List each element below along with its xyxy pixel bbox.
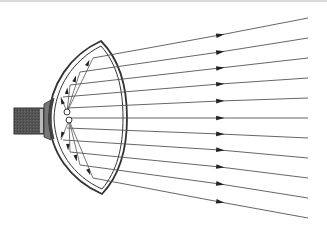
lamp-stripe bbox=[40, 109, 43, 133]
ray-line bbox=[80, 38, 308, 72]
arrow-right-icon bbox=[216, 82, 224, 87]
arrow-right-icon bbox=[216, 199, 225, 204]
ray-line bbox=[70, 152, 308, 178]
arrow-right-icon bbox=[216, 116, 224, 121]
ray bbox=[70, 58, 308, 85]
ray bbox=[67, 128, 308, 138]
arrow-right-icon bbox=[216, 181, 225, 186]
arrow-icon bbox=[61, 98, 65, 105]
ray bbox=[80, 165, 308, 198]
arrow-right-icon bbox=[216, 164, 225, 169]
parabolic-reflector-diagram: Parabolic reflector producing parallel r… bbox=[0, 0, 327, 225]
ray bbox=[70, 116, 308, 121]
ray-line bbox=[67, 98, 308, 108]
ray-line bbox=[93, 178, 308, 218]
arrow-icon bbox=[72, 76, 76, 83]
arrow-right-icon bbox=[216, 132, 224, 137]
focus-point-icon bbox=[64, 109, 70, 115]
arrow-icon bbox=[85, 60, 90, 67]
ray-line bbox=[93, 18, 308, 58]
focus-point-icon bbox=[66, 117, 72, 123]
ray-line bbox=[63, 78, 308, 97]
arrow-right-icon bbox=[216, 147, 225, 152]
ray bbox=[70, 152, 308, 178]
arrow-right-icon bbox=[216, 33, 225, 38]
lamp-body bbox=[14, 108, 44, 134]
ray bbox=[63, 78, 308, 97]
arrow-icon bbox=[65, 87, 69, 94]
ray-line bbox=[67, 128, 308, 138]
ray-line bbox=[70, 58, 308, 85]
arrow-right-icon bbox=[216, 50, 225, 55]
arrow-right-icon bbox=[216, 99, 224, 104]
reflector-dark-band bbox=[50, 98, 53, 139]
arrow-icon bbox=[73, 155, 77, 162]
arrow-right-icon bbox=[216, 66, 225, 71]
internal-ray bbox=[66, 120, 70, 152]
ray bbox=[93, 178, 308, 218]
ray-line bbox=[80, 165, 308, 198]
ray bbox=[93, 18, 308, 58]
focus-points bbox=[64, 109, 72, 123]
ray bbox=[67, 98, 308, 108]
arrow-icon bbox=[66, 144, 70, 151]
lamp-housing bbox=[14, 100, 51, 140]
ray bbox=[80, 38, 308, 72]
